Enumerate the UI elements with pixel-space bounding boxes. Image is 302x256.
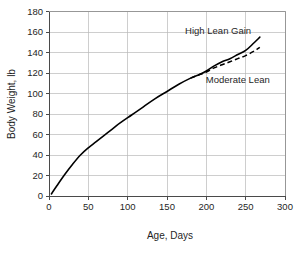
y-tick-label: 80 <box>32 108 43 119</box>
y-tick-label: 20 <box>32 170 43 181</box>
y-tick-label: 180 <box>27 6 43 17</box>
y-axis-title: Body Weight, lb <box>6 69 17 139</box>
x-tick-label: 0 <box>46 201 51 212</box>
chart-background <box>0 0 302 256</box>
series-annotation-high-lean-gain: High Lean Gain <box>185 25 251 36</box>
x-tick-label: 150 <box>159 201 175 212</box>
y-tick-label: 140 <box>27 47 43 58</box>
chart-figure: 020406080100120140160180 050100150200250… <box>0 0 302 256</box>
x-tick-label: 100 <box>120 201 136 212</box>
x-tick-label: 200 <box>198 201 214 212</box>
y-tick-label: 100 <box>27 88 43 99</box>
x-tick-label: 300 <box>277 201 293 212</box>
y-tick-label: 120 <box>27 67 43 78</box>
series-annotation-moderate-lean: Moderate Lean <box>206 74 270 85</box>
y-tick-label: 60 <box>32 129 43 140</box>
x-tick-label: 50 <box>83 201 94 212</box>
y-tick-label: 0 <box>38 190 43 201</box>
y-tick-label: 40 <box>32 149 43 160</box>
x-axis-title: Age, Days <box>147 230 193 241</box>
y-tick-label: 160 <box>27 26 43 37</box>
x-tick-label: 250 <box>238 201 254 212</box>
body-weight-vs-age-line-chart: 020406080100120140160180 050100150200250… <box>0 0 302 256</box>
